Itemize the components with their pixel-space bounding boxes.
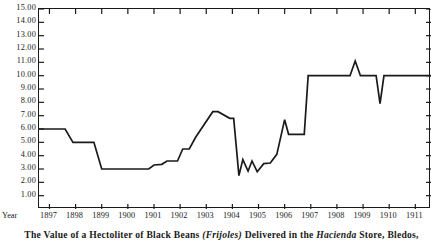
y-tick-label: 6.00: [21, 124, 36, 132]
x-tick-label: 1906: [275, 212, 292, 220]
x-tick-label: 1900: [118, 212, 135, 220]
x-tick-label: 1901: [144, 212, 161, 220]
x-axis-labels: 1897189818991900190119021903190419051906…: [0, 210, 443, 226]
y-tick-label: 7.00: [21, 111, 36, 119]
y-tick-label: 5.00: [21, 137, 36, 145]
figure: 15.0014.0013.0012.0011.0010.009.008.007.…: [0, 0, 443, 248]
x-ticks-bottom: [49, 204, 415, 209]
x-tick-label: 1897: [40, 212, 57, 220]
line-series: [39, 9, 431, 209]
y-tick-label: 2.00: [21, 177, 36, 185]
data-polyline: [39, 61, 431, 176]
caption-hacienda: Hacienda: [316, 229, 356, 240]
y-tick-label: 13.00: [16, 31, 36, 39]
x-tick-label: 1911: [406, 212, 423, 220]
x-tick-label: 1909: [354, 212, 371, 220]
caption-frijoles: (Frijoles): [202, 229, 242, 240]
y-tick-label: 4.00: [21, 151, 36, 159]
y-tick-label: 14.00: [16, 17, 36, 25]
x-tick-label: 1904: [223, 212, 240, 220]
y-ticks-right: [426, 9, 431, 196]
y-tick-label: 3.00: [21, 164, 36, 172]
x-tick-label: 1908: [327, 212, 344, 220]
y-axis-labels: 15.0014.0013.0012.0011.0010.009.008.007.…: [0, 0, 36, 216]
y-tick-label: 11.00: [17, 57, 36, 65]
plot-area: [38, 8, 430, 208]
x-tick-label: 1902: [171, 212, 188, 220]
y-tick-label: 10.00: [16, 71, 36, 79]
x-tick-label: 1905: [249, 212, 266, 220]
figure-caption: The Value of a Hectoliter of Black Beans…: [0, 229, 443, 240]
x-tick-label: 1898: [66, 212, 83, 220]
y-tick-label: 15.00: [16, 4, 36, 12]
y-tick-label: 8.00: [21, 97, 36, 105]
x-ticks-top: [49, 9, 415, 14]
y-tick-label: 9.00: [21, 84, 36, 92]
caption-part-2: Delivered in the: [242, 229, 316, 240]
y-tick-label: 12.00: [16, 44, 36, 52]
x-tick-label: 1899: [92, 212, 109, 220]
x-tick-label: 1907: [301, 212, 318, 220]
x-tick-label: 1910: [380, 212, 397, 220]
caption-part-3: Store, Bledos,: [357, 229, 419, 240]
caption-part-1: The Value of a Hectoliter of Black Beans: [24, 229, 202, 240]
x-tick-label: 1903: [197, 212, 214, 220]
y-tick-label: 1.00: [21, 191, 36, 199]
y-ticks-left: [39, 9, 44, 196]
